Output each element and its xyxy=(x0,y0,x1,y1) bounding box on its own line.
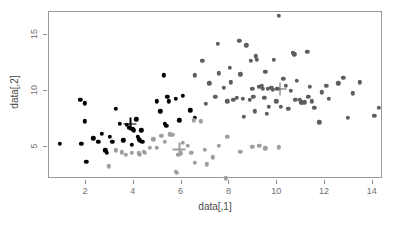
x-axis-tick-label: 8 xyxy=(226,186,231,196)
y-axis-tick xyxy=(43,34,47,35)
x-axis-tick xyxy=(85,180,86,184)
x-axis-tick-label: 2 xyxy=(82,186,87,196)
x-axis-tick xyxy=(181,180,182,184)
x-axis-tick-label: 14 xyxy=(367,186,377,196)
x-axis-tick-label: 4 xyxy=(130,186,135,196)
scatter-plot-figure: data[,1] data[,2] 246810121451015 xyxy=(0,0,393,226)
y-axis-tick xyxy=(43,146,47,147)
y-axis-tick-label: 10 xyxy=(29,85,39,95)
x-axis-tick-label: 6 xyxy=(178,186,183,196)
x-axis-tick-label: 12 xyxy=(319,186,329,196)
x-axis-tick-label: 10 xyxy=(271,186,281,196)
x-axis-tick xyxy=(276,180,277,184)
y-axis-title: data[,2] xyxy=(9,75,20,108)
x-axis-tick xyxy=(324,180,325,184)
y-axis-tick-label: 5 xyxy=(29,143,39,148)
x-axis-tick xyxy=(228,180,229,184)
x-axis-title: data[,1] xyxy=(198,201,231,212)
plot-frame xyxy=(48,11,382,178)
y-axis-tick-label: 15 xyxy=(29,29,39,39)
y-axis-tick xyxy=(43,90,47,91)
x-axis-tick xyxy=(133,180,134,184)
x-axis-tick xyxy=(372,180,373,184)
